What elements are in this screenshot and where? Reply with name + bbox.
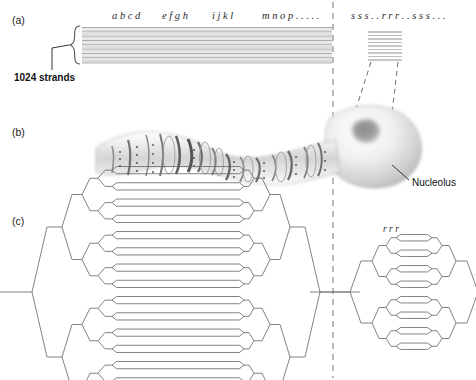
tree-branch [98, 243, 112, 251]
nucleolus-body [325, 106, 421, 189]
tree-branch [290, 227, 320, 292]
tree-branch [386, 339, 396, 347]
tree-branch [432, 269, 442, 277]
tree-branch [244, 341, 254, 349]
tree-branch [244, 373, 254, 380]
strand-loop [112, 264, 244, 271]
tree-branch [244, 333, 254, 341]
tree-branch [432, 339, 442, 347]
figure-vector-layer [0, 0, 476, 380]
tree-branch [98, 341, 112, 349]
strand-loop [396, 235, 432, 241]
tree-branch [244, 365, 254, 373]
tree-branch [432, 277, 442, 285]
tree-branch [372, 261, 386, 277]
tree-branch [98, 203, 112, 211]
tree-branch [270, 227, 290, 260]
strand-loop [396, 328, 432, 334]
tree-branch [432, 300, 442, 308]
tree-branch [386, 246, 396, 254]
panel-c-right-tree [310, 235, 476, 350]
tree-branch [244, 276, 254, 284]
tree-branch [98, 365, 112, 373]
tree-branch [442, 246, 456, 262]
tree-branch [98, 276, 112, 284]
tree-branch [98, 333, 112, 341]
nucleolus-callout-line-left [355, 62, 371, 112]
tree-branch [290, 292, 320, 357]
strand-loop [112, 232, 244, 239]
tree-branch [82, 260, 98, 276]
strand-loop [396, 281, 432, 287]
tree-branch [254, 373, 270, 380]
strand-loop [396, 250, 432, 256]
tree-branch [98, 178, 112, 186]
tree-branch [98, 211, 112, 219]
strand-bundle-main [82, 28, 332, 64]
tree-branch [82, 178, 98, 194]
panel-a-group [52, 26, 402, 113]
strand-loop [112, 297, 244, 304]
tree-branch [62, 227, 82, 260]
tree-branch [442, 323, 456, 339]
tree-branch [62, 325, 82, 358]
tree-branch [32, 227, 62, 292]
strand-bundle-inset [368, 32, 402, 60]
tree-branch [456, 261, 476, 292]
tree-branch [386, 269, 396, 277]
tree-branch [82, 243, 98, 259]
tree-branch [442, 261, 456, 277]
tree-branch [254, 325, 270, 341]
strand-loop [112, 248, 244, 255]
nucleolus-callout-line-right [392, 62, 398, 113]
tree-branch [254, 308, 270, 324]
tree-branch [432, 308, 442, 316]
panel-c-group [0, 167, 476, 380]
chromosome-body [96, 132, 340, 185]
tree-branch [456, 292, 476, 323]
tree-branch [32, 292, 62, 357]
strand-loop [112, 280, 244, 287]
tree-branch [254, 260, 270, 276]
tree-branch [372, 246, 386, 262]
tree-branch [62, 357, 82, 380]
strand-bundle-brace [70, 26, 81, 64]
tree-branch [62, 195, 82, 228]
strand-loop [112, 362, 244, 369]
tree-branch [98, 308, 112, 316]
strand-loop [396, 343, 432, 349]
strand-loop [112, 199, 244, 206]
strand-loop [396, 312, 432, 318]
nucleolus [325, 106, 421, 189]
tree-branch [350, 292, 372, 323]
tree-branch [350, 261, 372, 292]
tree-branch [82, 325, 98, 341]
tree-branch [254, 243, 270, 259]
tree-branch [432, 331, 442, 339]
tree-branch [244, 268, 254, 276]
strand-loop [396, 266, 432, 272]
strand-loop [112, 313, 244, 320]
strand-loop [112, 329, 244, 336]
tree-branch [82, 373, 98, 380]
tree-branch [442, 308, 456, 324]
tree-branch [386, 331, 396, 339]
tree-branch [270, 195, 290, 228]
tree-branch [244, 300, 254, 308]
tree-branch [82, 308, 98, 324]
tree-branch [98, 373, 112, 380]
figure-root: (a) (b) (c) a b c d e f g h i j k l m n … [0, 0, 476, 380]
tree-branch [244, 243, 254, 251]
tree-branch [254, 195, 270, 211]
panel-c-left-tree [0, 167, 360, 380]
strand-loop [396, 297, 432, 303]
tree-branch [244, 203, 254, 211]
tree-branch [244, 308, 254, 316]
polytene-chromosome [96, 132, 340, 185]
tree-branch [372, 308, 386, 324]
tree-branch [386, 277, 396, 285]
strand-loop [112, 345, 244, 352]
tree-branch [372, 323, 386, 339]
panel-b-group [96, 106, 422, 189]
tree-branch [98, 235, 112, 243]
